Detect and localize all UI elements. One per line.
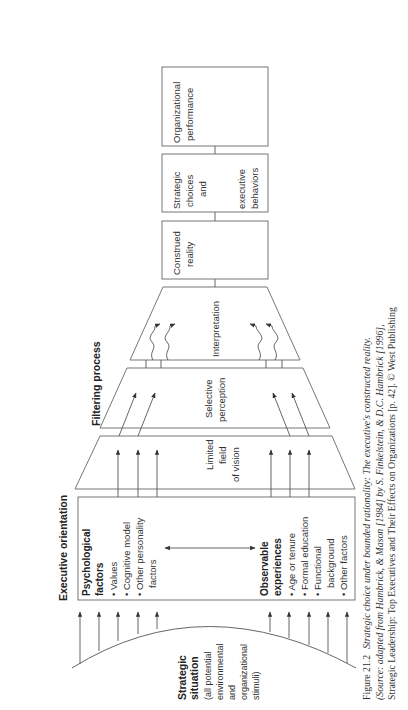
limited-field-text: of vision <box>230 447 241 482</box>
limited-field-text: Limited <box>204 439 215 470</box>
caption-line-3: Strategic Leadership: Top Executives and… <box>386 307 397 700</box>
strategic-situation-title-1: Strategic <box>176 655 188 700</box>
selective-perception-text: Selective <box>203 379 214 418</box>
strategic-choices-text: and <box>197 181 208 197</box>
strategic-choices-text: Strategic <box>171 171 182 209</box>
strategic-situation-desc-2: environmental <box>215 643 225 700</box>
executive-orientation-label: Executive orientation <box>57 495 69 601</box>
strategic-choices-text: choices <box>184 175 195 207</box>
psychological-item: • Other personality <box>134 517 145 596</box>
observable-title-2: experiences <box>272 538 283 596</box>
observable-item: • Functional <box>312 546 323 596</box>
interpretation-label: Interpretation <box>210 301 221 357</box>
construed-reality-text: Construed <box>171 231 182 275</box>
strategic-situation-title-2: situation <box>188 656 200 700</box>
limited-field-text: field <box>217 447 228 464</box>
observable-item: background <box>325 538 336 588</box>
filtering-process-label: Filtering process <box>90 341 102 426</box>
strategic-situation-desc-5: stimuli) <box>251 671 261 700</box>
construed-reality-text: reality <box>184 241 195 267</box>
psychological-title-2: factors <box>94 562 105 596</box>
observable-item: • Other factors <box>338 535 349 596</box>
caption-figure-number: Figure 21.2 <box>361 655 372 700</box>
organizational-performance-text: Organizational <box>171 82 182 143</box>
strategic-situation-desc-4: organizational <box>239 644 249 700</box>
strategic-choices-text: behaviors <box>249 168 260 209</box>
observable-item: • Formal education <box>299 517 310 596</box>
strategic-situation-desc-3: and <box>227 685 237 700</box>
caption-title: Strategic choice under bounded rationali… <box>361 337 372 649</box>
organizational-performance-text: performance <box>184 88 195 141</box>
psychological-item: • Values <box>108 561 119 596</box>
strategic-situation-arc <box>72 627 356 669</box>
psychological-item: factors <box>147 559 158 588</box>
psychological-item: • Cognitive model <box>121 522 132 596</box>
figure-caption: Figure 21.2Strategic choice under bounde… <box>361 307 397 700</box>
psychological-title-1: Psychological <box>81 529 92 596</box>
strategic-situation-desc-1: (all potential <box>203 651 213 700</box>
stimulus-arrows <box>80 612 347 664</box>
caption-line-1: Figure 21.2Strategic choice under bounde… <box>361 337 372 700</box>
observable-title-1: Observable <box>259 541 270 596</box>
observable-item: • Age or tenure <box>286 533 297 596</box>
strategic-choices-text: executive <box>236 169 247 209</box>
limited-field-trapezoid <box>75 436 355 489</box>
selective-perception-text: perception <box>216 378 227 422</box>
caption-line-2: (Source: adapted from Hambrick, & Mason … <box>374 324 386 700</box>
strategic-choice-diagram: Strategic situation (all potential envir… <box>0 0 408 710</box>
strategic-situation-label: Strategic situation (all potential envir… <box>176 643 261 700</box>
